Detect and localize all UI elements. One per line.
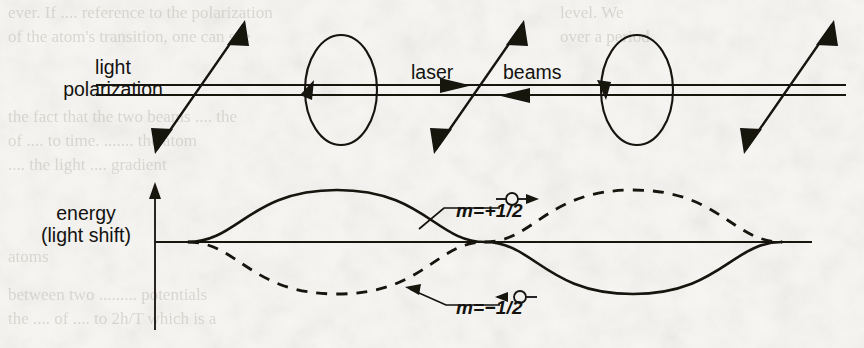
figure-canvas: ever. If .... reference to the polarizat… — [0, 0, 864, 348]
svg-text:over a period: over a period — [560, 27, 650, 46]
physics-figure: ever. If .... reference to the polarizat… — [0, 0, 864, 348]
svg-text:of the atom's transition, one: of the atom's transition, one can see — [8, 27, 250, 46]
svg-text:the fact that the two beams ..: the fact that the two beams .... the — [8, 107, 237, 126]
light-polarization-label: light polarization — [38, 57, 188, 101]
svg-text:atoms: atoms — [8, 247, 49, 266]
beams-label: beams — [503, 62, 562, 84]
m-minus-half-label: m=−1/2 — [456, 297, 523, 318]
light-polarization-line2: polarization — [38, 79, 188, 101]
energy-axis-line1: energy — [23, 203, 149, 225]
svg-text:level. We: level. We — [560, 3, 623, 22]
energy-axis-line2: (light shift) — [23, 225, 149, 247]
light-polarization-line1: light — [38, 57, 188, 79]
svg-text:the .... of .... to 2h/T which: the .... of .... to 2h/T which is a — [8, 309, 217, 328]
energy-axis-label: energy (light shift) — [23, 203, 149, 247]
m-plus-half-label: m=+1/2 — [456, 200, 523, 221]
svg-text:between two ......... potentia: between two ......... potentials — [8, 285, 207, 304]
svg-text:.... the light .... gradient: .... the light .... gradient — [8, 155, 167, 174]
laser-label: laser — [411, 62, 453, 84]
svg-text:ever. If .... reference to the: ever. If .... reference to the polarizat… — [8, 3, 273, 22]
